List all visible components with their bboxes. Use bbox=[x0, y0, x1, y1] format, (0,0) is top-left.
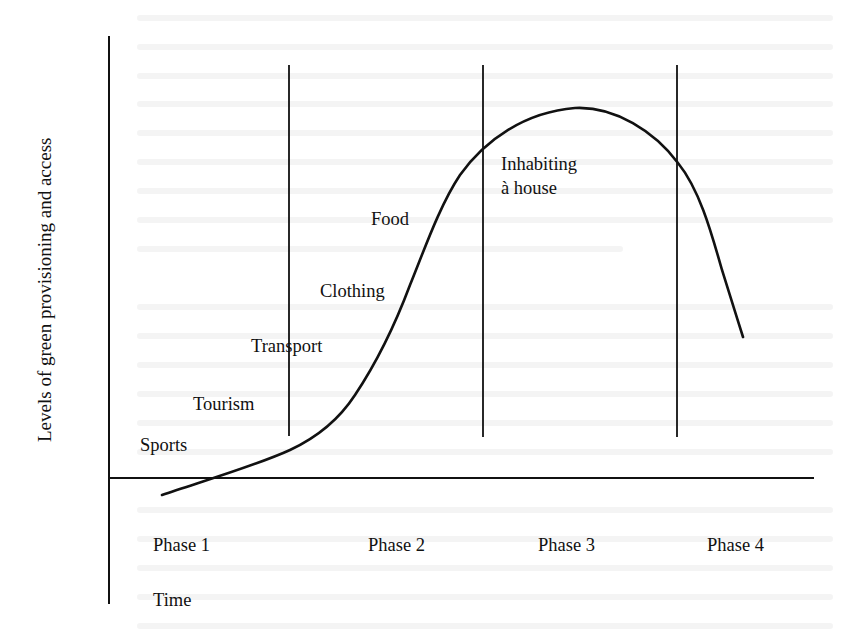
phase-label-3: Phase 3 bbox=[538, 535, 595, 555]
y-axis-label: Levels of green provisioning and access bbox=[34, 138, 55, 442]
provisioning-curve bbox=[162, 108, 743, 495]
phase-label-1: Phase 1 bbox=[153, 535, 210, 555]
phase-label-2: Phase 2 bbox=[368, 535, 425, 555]
label-inhabiting: Inhabiting bbox=[501, 154, 577, 174]
label-clothing: Clothing bbox=[320, 281, 385, 301]
diagram-canvas: Levels of green provisioning and access … bbox=[0, 0, 851, 641]
x-axis-label: Time bbox=[153, 590, 191, 610]
label-tourism: Tourism bbox=[193, 394, 255, 414]
phase-label-4: Phase 4 bbox=[707, 535, 764, 555]
label-a-house: à house bbox=[501, 178, 557, 198]
label-food: Food bbox=[371, 209, 410, 229]
label-transport: Transport bbox=[251, 336, 323, 356]
label-sports: Sports bbox=[140, 435, 187, 455]
green-provisioning-diagram: Levels of green provisioning and access … bbox=[0, 0, 851, 641]
